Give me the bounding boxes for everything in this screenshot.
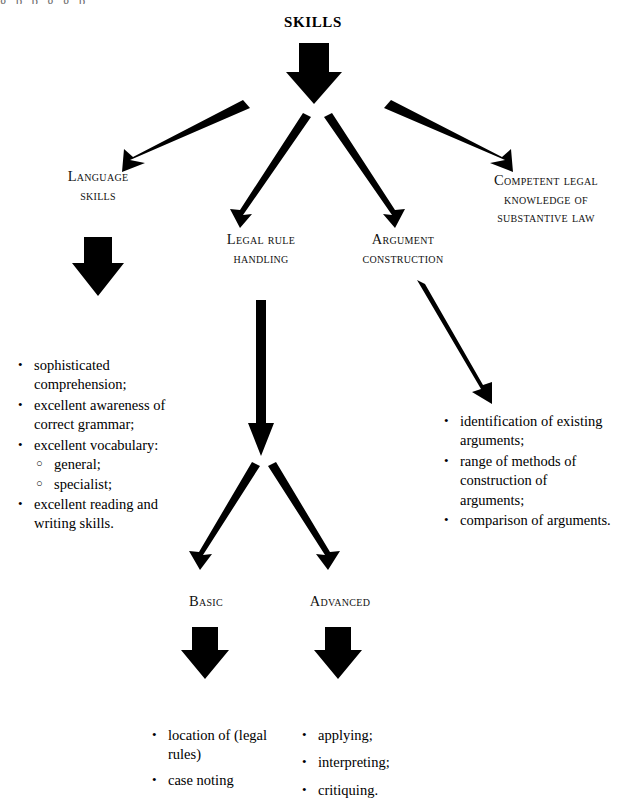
list-item-label: case noting — [168, 772, 234, 788]
arrow-legal-rule-handling-down — [248, 300, 274, 456]
sublist-vocabulary: ○ general; ○ specialist; — [34, 455, 186, 494]
bullet-icon: • — [302, 753, 307, 770]
block-arrow-basic — [181, 627, 229, 679]
node-basic: Basic — [160, 592, 252, 611]
node-legal-rule-handling: Legal rule handling — [185, 230, 337, 267]
list-item: • interpreting; — [300, 753, 440, 772]
diagram-canvas: g p p g g p SKILLS — [0, 0, 627, 804]
sublist-item: ○ specialist; — [34, 475, 186, 494]
list-item: • comparison of arguments. — [442, 511, 614, 530]
bullet-icon: • — [302, 781, 307, 798]
list-item: • case noting — [150, 771, 268, 790]
list-item-label: critiquing. — [318, 782, 378, 798]
arrow-legal-rule-handling-to-advanced — [268, 462, 340, 570]
arrow-skills-to-language-skills — [122, 100, 250, 172]
bullet-icon: • — [18, 356, 23, 373]
node-competent-legal-knowledge: Competent legal knowledge of substantive… — [466, 171, 626, 227]
list-item: • excellent awareness of correct grammar… — [16, 396, 186, 435]
block-arrow-skills — [286, 43, 342, 104]
node-argument-construction: Argument construction — [325, 230, 481, 267]
bullet-icon: • — [444, 412, 449, 429]
list-item-label: interpreting; — [318, 754, 390, 770]
list-item-label: excellent awareness of correct grammar; — [34, 397, 165, 432]
bullet-icon: • — [18, 436, 23, 453]
arrow-skills-to-legal-rule-handling — [230, 113, 311, 228]
list-item-label: range of methods of construction of argu… — [460, 453, 576, 508]
sublist-item-label: specialist; — [54, 476, 112, 492]
sublist-item-label: general; — [54, 456, 101, 472]
bullet-icon: • — [302, 726, 307, 743]
list-argument-construction: • identification of existing arguments; … — [442, 412, 614, 532]
list-item: • location of (legal rules) — [150, 726, 268, 765]
node-advanced: Advanced — [290, 592, 390, 611]
hollow-bullet-icon: ○ — [36, 456, 43, 471]
bullet-icon: • — [18, 495, 23, 512]
block-arrow-advanced — [314, 627, 362, 679]
list-item: • sophisticated comprehension; — [16, 356, 186, 395]
list-advanced: • applying; • interpreting; • critiquing… — [300, 726, 440, 801]
list-item-label: excellent reading and writing skills. — [34, 496, 158, 531]
bullet-icon: • — [152, 726, 157, 743]
sublist-item: ○ general; — [34, 455, 186, 474]
arrow-skills-to-competent-legal-knowledge — [384, 100, 513, 172]
list-item-label: sophisticated comprehension; — [34, 357, 127, 392]
list-basic: • location of (legal rules) • case notin… — [150, 726, 268, 791]
arrow-argument-construction-to-list — [417, 280, 492, 404]
bullet-icon: • — [18, 396, 23, 413]
hollow-bullet-icon: ○ — [36, 476, 43, 491]
bullet-icon: • — [152, 771, 157, 788]
clipped-top-text-row: g p p g g p — [0, 0, 627, 4]
node-language-skills: Language skills — [20, 167, 176, 204]
arrow-legal-rule-handling-to-basic — [189, 462, 260, 570]
block-arrow-language-skills — [72, 237, 124, 296]
list-item: • range of methods of construction of ar… — [442, 452, 614, 510]
list-item: • identification of existing arguments; — [442, 412, 614, 451]
list-item: • critiquing. — [300, 781, 440, 800]
bullet-icon: • — [444, 511, 449, 528]
list-item-label: identification of existing arguments; — [460, 413, 603, 448]
list-language-skills: • sophisticated comprehension; • excelle… — [16, 356, 186, 535]
list-item-label: location of (legal rules) — [168, 727, 267, 762]
arrow-skills-to-argument-construction — [324, 113, 405, 228]
bullet-icon: • — [444, 452, 449, 469]
list-item-label: applying; — [318, 727, 373, 743]
diagram-title: SKILLS — [233, 14, 393, 31]
list-item: • excellent vocabulary: ○ general; ○ spe… — [16, 436, 186, 494]
list-item: • excellent reading and writing skills. — [16, 495, 186, 534]
list-item: • applying; — [300, 726, 440, 745]
list-item-label: comparison of arguments. — [460, 512, 611, 528]
list-item-label: excellent vocabulary: — [34, 437, 158, 453]
